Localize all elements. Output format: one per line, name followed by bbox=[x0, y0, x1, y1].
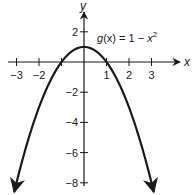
axis-ticks: −3−21232−2−4−6−8 bbox=[10, 26, 154, 189]
function-eq: = 1 − bbox=[116, 32, 147, 44]
y-tick-label: −2 bbox=[65, 86, 78, 98]
x-tick-label: 2 bbox=[126, 69, 132, 81]
y-tick-label: −6 bbox=[65, 147, 78, 159]
y-tick-label: 2 bbox=[72, 26, 78, 38]
x-tick-label: 3 bbox=[148, 69, 154, 81]
x-axis-label: x bbox=[183, 55, 191, 69]
function-exponent: 2 bbox=[153, 30, 158, 39]
y-axis-label: y bbox=[79, 0, 87, 13]
y-tick-label: −8 bbox=[65, 177, 78, 189]
x-tick-label: 1 bbox=[103, 69, 109, 81]
y-tick-label: −4 bbox=[65, 116, 78, 128]
parabola-chart: −3−21232−2−4−6−8 x y g(x) = 1 − x2 bbox=[0, 0, 192, 195]
function-arg: (x) bbox=[103, 32, 116, 44]
x-tick-label: −2 bbox=[33, 69, 46, 81]
function-label: g(x) = 1 − x2 bbox=[97, 30, 158, 44]
x-tick-label: −3 bbox=[10, 69, 23, 81]
